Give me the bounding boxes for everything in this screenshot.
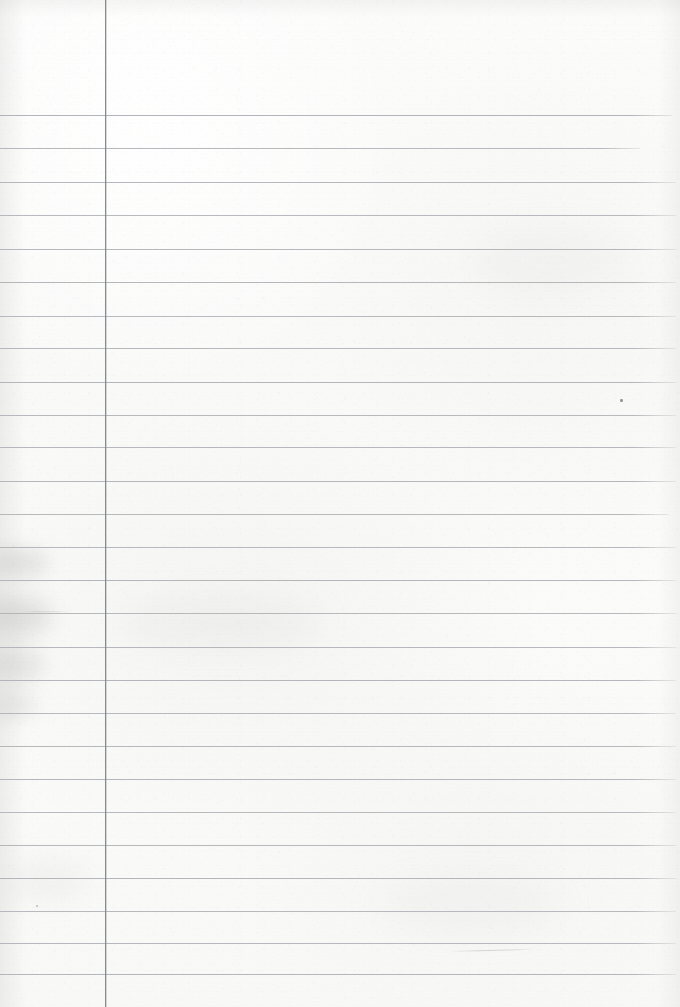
ruled-line	[0, 115, 672, 116]
vertical-margin-line	[105, 0, 106, 1007]
ruled-line	[0, 680, 676, 681]
ink-speck-left	[36, 905, 38, 907]
ruled-line	[0, 249, 676, 250]
ruled-line	[0, 316, 676, 317]
ink-speck-right	[620, 399, 623, 402]
ruled-line	[0, 613, 676, 614]
ruled-line	[0, 415, 676, 416]
ruled-line	[0, 845, 676, 846]
ruled-line	[0, 148, 640, 149]
ruled-line	[0, 481, 676, 482]
ruled-line	[0, 911, 676, 912]
scan-edge-shadow-right	[658, 0, 680, 1007]
ruled-line	[0, 182, 676, 183]
ruled-line	[0, 514, 668, 515]
ruled-line	[0, 282, 676, 283]
ruled-line	[0, 547, 676, 548]
ruled-line	[0, 580, 676, 581]
ruled-line	[0, 974, 676, 975]
scan-banding-texture	[0, 0, 680, 1007]
ruled-line	[0, 812, 676, 813]
ruled-line	[0, 713, 676, 714]
notebook-page	[0, 0, 680, 1007]
ruled-line	[0, 878, 676, 879]
ruled-line	[0, 348, 676, 349]
ruled-line	[0, 779, 676, 780]
ruled-line	[0, 447, 676, 448]
ruled-line	[0, 746, 676, 747]
ruled-line	[0, 943, 676, 944]
ruled-line	[0, 647, 676, 648]
scan-edge-shadow-left	[0, 0, 26, 1007]
ruled-line	[0, 215, 676, 216]
scan-edge-shadow-top	[0, 0, 680, 18]
ruled-line	[0, 382, 676, 383]
